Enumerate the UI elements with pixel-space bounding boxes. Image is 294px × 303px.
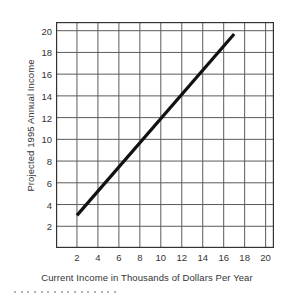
artifact-dot <box>21 291 23 293</box>
y-tick-label: 4 <box>26 199 52 210</box>
artifact-dot <box>67 291 69 293</box>
y-tick-label: 20 <box>26 25 52 36</box>
y-tick-label: 6 <box>26 177 52 188</box>
artifact-dot <box>47 291 49 293</box>
y-tick-label: 2 <box>26 221 52 232</box>
artifact-dot <box>107 291 109 293</box>
artifact-dot <box>14 291 16 293</box>
x-axis-tick-labels: 2468101214161820 <box>56 252 274 266</box>
chart-figure: Projected 1995 Annual Income 24681012141… <box>0 0 294 303</box>
artifact-dot <box>81 291 83 293</box>
y-tick-label: 16 <box>26 69 52 80</box>
artifact-dot <box>61 291 63 293</box>
x-tick-label: 20 <box>254 252 278 263</box>
artifact-dot <box>114 291 116 293</box>
artifact-dot <box>27 291 29 293</box>
y-tick-label: 10 <box>26 134 52 145</box>
artifact-dot <box>74 291 76 293</box>
y-axis-tick-labels: 2468101214161820 <box>24 22 52 248</box>
artifact-dot <box>94 291 96 293</box>
plot-frame <box>57 23 274 248</box>
y-tick-label: 14 <box>26 90 52 101</box>
artifact-dot <box>34 291 36 293</box>
scan-artifact-dots <box>14 290 116 294</box>
plot-canvas <box>56 22 274 248</box>
y-tick-label: 12 <box>26 112 52 123</box>
y-tick-label: 8 <box>26 156 52 167</box>
plot-area <box>56 22 274 248</box>
x-axis-title: Current Income in Thousands of Dollars P… <box>0 272 294 283</box>
y-tick-label: 18 <box>26 47 52 58</box>
artifact-dot <box>101 291 103 293</box>
artifact-dot <box>54 291 56 293</box>
data-line <box>77 34 234 215</box>
artifact-dot <box>41 291 43 293</box>
artifact-dot <box>87 291 89 293</box>
